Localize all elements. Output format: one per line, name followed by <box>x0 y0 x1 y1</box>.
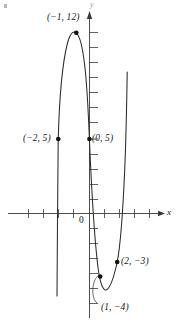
leader-line-min <box>93 276 100 303</box>
origin-label: 0 <box>79 215 84 225</box>
point-label-intercept: (0, 5) <box>92 133 113 143</box>
y-axis-label: y <box>90 0 94 9</box>
point-label-min: (1, −4) <box>101 302 129 312</box>
point-marker-peak <box>74 31 79 36</box>
point-marker-2-neg3 <box>115 260 120 265</box>
point-marker-neg2-5 <box>56 137 61 142</box>
graph-canvas <box>0 0 180 323</box>
point-label-2-neg3: (2, −3) <box>121 256 149 266</box>
cubic-graph-figure: (−1, 12) (−2, 5) (0, 5) (2, −3) (1, −4) … <box>0 0 180 323</box>
cubic-curve <box>57 32 127 296</box>
point-label-peak: (−1, 12) <box>47 12 80 22</box>
x-axis <box>8 209 165 218</box>
x-axis-label: x <box>167 207 171 217</box>
point-marker-intercept <box>87 137 92 142</box>
point-marker-min <box>98 274 103 279</box>
point-label-neg2-5: (−2, 5) <box>23 133 51 143</box>
data-point-markers <box>56 31 119 279</box>
y-axis <box>87 11 98 318</box>
